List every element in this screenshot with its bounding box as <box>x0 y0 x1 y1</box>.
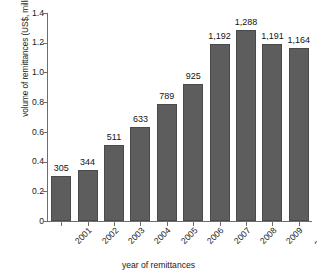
bar-value-label: 789 <box>147 92 187 101</box>
x-axis-title: year of remittances <box>0 260 317 270</box>
x-axis-tick-label: 2003 <box>127 226 147 246</box>
x-axis-tick-mark <box>140 222 141 226</box>
x-axis-tick-label: 2007 <box>232 226 252 246</box>
plot-area <box>48 13 312 221</box>
bar-value-label: 511 <box>94 133 134 142</box>
x-axis-tick-label: 2005 <box>179 226 199 246</box>
bar[interactable] <box>51 176 71 221</box>
bar-value-label: 1,288 <box>226 18 266 27</box>
bar-value-label: 925 <box>173 72 213 81</box>
bar[interactable] <box>78 170 98 221</box>
x-axis-tick-mark <box>299 222 300 226</box>
bar-value-label: 344 <box>68 158 108 167</box>
bar-chart: volume of remittances (US$, millions) 00… <box>0 0 317 275</box>
y-axis-tick-label: 0.6 <box>18 128 44 137</box>
x-axis-tick-mark <box>61 222 62 226</box>
bar-value-label: 1,192 <box>200 32 240 41</box>
x-axis-tick-mark <box>88 222 89 226</box>
x-axis-tick-mark <box>246 222 247 226</box>
bar-value-label: 1,164 <box>279 36 317 45</box>
x-axis-tick-mark <box>272 222 273 226</box>
x-axis-tick-label: 2009 <box>285 226 305 246</box>
y-axis-tick-label: 0 <box>18 217 44 226</box>
y-axis-tick-mark <box>43 43 47 44</box>
x-axis-tick-label: 2010e <box>313 226 317 249</box>
x-axis-tick-label: 2001 <box>74 226 94 246</box>
x-axis-tick-label: 2008 <box>259 226 279 246</box>
y-axis-tick-label: 0.2 <box>18 187 44 196</box>
bar[interactable] <box>104 145 124 221</box>
bar[interactable] <box>210 44 230 221</box>
y-axis-tick-mark <box>43 132 47 133</box>
y-axis-tick-label: 0.8 <box>18 98 44 107</box>
y-axis-tick-mark <box>43 191 47 192</box>
y-axis-tick-mark <box>43 102 47 103</box>
x-axis-tick-mark <box>193 222 194 226</box>
bar[interactable] <box>289 48 309 221</box>
y-axis-tick-label: 1.4 <box>18 9 44 18</box>
x-axis-tick-mark <box>167 222 168 226</box>
bar[interactable] <box>183 84 203 221</box>
y-axis-tick-mark <box>43 72 47 73</box>
bar[interactable] <box>262 44 282 221</box>
bar-value-label: 633 <box>120 115 160 124</box>
y-axis-tick-mark <box>43 221 47 222</box>
bar[interactable] <box>236 30 256 221</box>
x-axis-tick-mark <box>220 222 221 226</box>
y-axis-tick-label: 1.0 <box>18 68 44 77</box>
x-axis-tick-label: 2002 <box>100 226 120 246</box>
y-axis-tick-label: 0.4 <box>18 157 44 166</box>
x-axis-tick-label: 2004 <box>153 226 173 246</box>
y-axis-tick-labels: 00.20.40.60.81.01.21.4 <box>18 0 44 275</box>
y-axis-tick-mark <box>43 13 47 14</box>
x-axis-tick-label: 2006 <box>206 226 226 246</box>
x-axis-tick-mark <box>114 222 115 226</box>
y-axis-tick-label: 1.2 <box>18 38 44 47</box>
